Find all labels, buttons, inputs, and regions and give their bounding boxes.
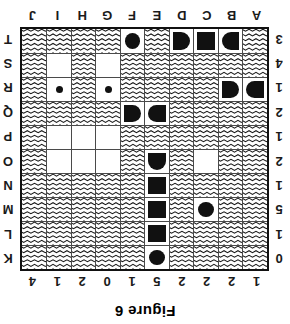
grid-cell-IQ[interactable]: [47, 101, 72, 125]
grid-cell-CM[interactable]: [194, 197, 219, 221]
grid-cell-IT[interactable]: [47, 29, 72, 53]
grid-cell-DS[interactable]: [169, 53, 194, 77]
grid-cell-AS[interactable]: [243, 53, 268, 77]
grid-cell-FR[interactable]: [120, 77, 145, 101]
grid-cell-EP[interactable]: [145, 125, 170, 149]
grid-cell-JO[interactable]: [22, 149, 47, 173]
grid-cell-IR[interactable]: [47, 77, 72, 101]
grid-cell-HL[interactable]: [71, 221, 96, 245]
grid-cell-CS[interactable]: [194, 53, 219, 77]
grid-cell-IP[interactable]: [47, 125, 72, 149]
grid-cell-FL[interactable]: [120, 221, 145, 245]
grid-cell-DM[interactable]: [169, 197, 194, 221]
grid-cell-GO[interactable]: [96, 149, 121, 173]
grid-cell-EK[interactable]: [145, 245, 170, 269]
grid-cell-EN[interactable]: [145, 173, 170, 197]
grid-cell-GT[interactable]: [96, 29, 121, 53]
grid-cell-JR[interactable]: [22, 77, 47, 101]
grid-cell-JS[interactable]: [22, 53, 47, 77]
grid-cell-BQ[interactable]: [218, 101, 243, 125]
grid-cell-AT[interactable]: [243, 29, 268, 53]
grid-cell-CQ[interactable]: [194, 101, 219, 125]
grid-cell-HT[interactable]: [71, 29, 96, 53]
grid-cell-FN[interactable]: [120, 173, 145, 197]
grid-cell-JN[interactable]: [22, 173, 47, 197]
grid-cell-GS[interactable]: [96, 53, 121, 77]
grid-cell-BT[interactable]: [218, 29, 243, 53]
grid-cell-HO[interactable]: [71, 149, 96, 173]
grid-cell-DQ[interactable]: [169, 101, 194, 125]
grid-cell-IN[interactable]: [47, 173, 72, 197]
grid-cell-DR[interactable]: [169, 77, 194, 101]
grid-cell-ES[interactable]: [145, 53, 170, 77]
grid-cell-ER[interactable]: [145, 77, 170, 101]
grid-cell-JT[interactable]: [22, 29, 47, 53]
grid-cell-BL[interactable]: [218, 221, 243, 245]
grid-cell-AQ[interactable]: [243, 101, 268, 125]
grid-cell-JK[interactable]: [22, 245, 47, 269]
grid-cell-GK[interactable]: [96, 245, 121, 269]
grid-cell-CT[interactable]: [194, 29, 219, 53]
grid-cell-BP[interactable]: [218, 125, 243, 149]
grid-cell-JM[interactable]: [22, 197, 47, 221]
grid-cell-AR[interactable]: [243, 77, 268, 101]
grid-cell-GN[interactable]: [96, 173, 121, 197]
grid-cell-BM[interactable]: [218, 197, 243, 221]
grid-cell-GM[interactable]: [96, 197, 121, 221]
grid-cell-AP[interactable]: [243, 125, 268, 149]
grid-cell-GQ[interactable]: [96, 101, 121, 125]
grid-cell-CP[interactable]: [194, 125, 219, 149]
grid-cell-AM[interactable]: [243, 197, 268, 221]
grid-cell-IM[interactable]: [47, 197, 72, 221]
grid-cell-JQ[interactable]: [22, 101, 47, 125]
grid-cell-BS[interactable]: [218, 53, 243, 77]
grid-cell-HK[interactable]: [71, 245, 96, 269]
grid-cell-BK[interactable]: [218, 245, 243, 269]
grid-cell-FT[interactable]: [120, 29, 145, 53]
grid-cell-DN[interactable]: [169, 173, 194, 197]
grid-cell-FS[interactable]: [120, 53, 145, 77]
grid-cell-GL[interactable]: [96, 221, 121, 245]
grid-cell-JP[interactable]: [22, 125, 47, 149]
grid-cell-FO[interactable]: [120, 149, 145, 173]
grid-cell-GP[interactable]: [96, 125, 121, 149]
grid-cell-CN[interactable]: [194, 173, 219, 197]
grid-cell-EQ[interactable]: [145, 101, 170, 125]
grid-cell-CL[interactable]: [194, 221, 219, 245]
grid-cell-IS[interactable]: [47, 53, 72, 77]
grid-cell-FM[interactable]: [120, 197, 145, 221]
grid-cell-IK[interactable]: [47, 245, 72, 269]
grid-cell-IL[interactable]: [47, 221, 72, 245]
grid-cell-HQ[interactable]: [71, 101, 96, 125]
grid-cell-DT[interactable]: [169, 29, 194, 53]
grid-cell-AN[interactable]: [243, 173, 268, 197]
grid-cell-EM[interactable]: [145, 197, 170, 221]
grid-cell-DK[interactable]: [169, 245, 194, 269]
grid-cell-GR[interactable]: [96, 77, 121, 101]
grid-cell-ET[interactable]: [145, 29, 170, 53]
grid-cell-CK[interactable]: [194, 245, 219, 269]
grid-cell-HR[interactable]: [71, 77, 96, 101]
grid-cell-JL[interactable]: [22, 221, 47, 245]
grid-cell-BR[interactable]: [218, 77, 243, 101]
grid-cell-CO[interactable]: [194, 149, 219, 173]
grid-cell-HN[interactable]: [71, 173, 96, 197]
grid-cell-FP[interactable]: [120, 125, 145, 149]
grid-cell-FQ[interactable]: [120, 101, 145, 125]
grid-cell-DL[interactable]: [169, 221, 194, 245]
grid-cell-HP[interactable]: [71, 125, 96, 149]
grid-cell-EO[interactable]: [145, 149, 170, 173]
grid-cell-AK[interactable]: [243, 245, 268, 269]
grid-cell-BO[interactable]: [218, 149, 243, 173]
grid-cell-DO[interactable]: [169, 149, 194, 173]
grid-cell-FK[interactable]: [120, 245, 145, 269]
grid-cell-IO[interactable]: [47, 149, 72, 173]
grid-cell-CR[interactable]: [194, 77, 219, 101]
grid-cell-DP[interactable]: [169, 125, 194, 149]
puzzle-grid[interactable]: [20, 27, 269, 271]
grid-cell-AL[interactable]: [243, 221, 268, 245]
grid-cell-EL[interactable]: [145, 221, 170, 245]
grid-cell-AO[interactable]: [243, 149, 268, 173]
grid-cell-HM[interactable]: [71, 197, 96, 221]
grid-cell-HS[interactable]: [71, 53, 96, 77]
